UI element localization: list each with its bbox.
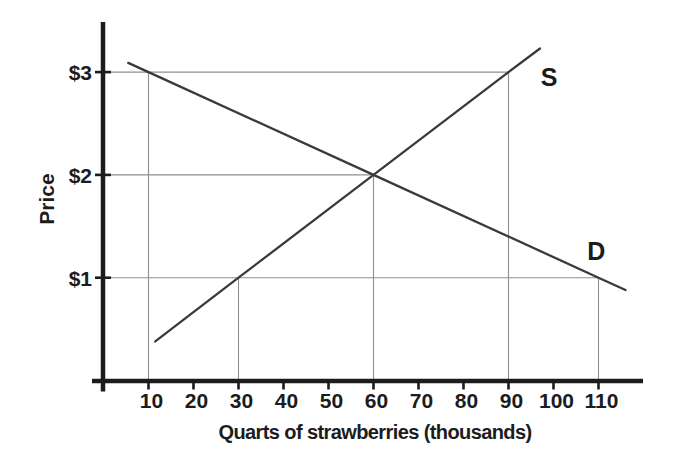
x-tick-label-40: 40: [275, 389, 298, 412]
x-tick-label-100: 100: [539, 389, 574, 412]
x-tick-label-10: 10: [140, 389, 163, 412]
y-tick-label-3: $3: [69, 61, 92, 84]
x-tick-label-30: 30: [230, 389, 253, 412]
y-tick-label-1: $1: [69, 267, 93, 290]
x-tick-label-110: 110: [585, 389, 619, 412]
supply-curve: [155, 48, 540, 341]
demand-curve: [128, 63, 625, 290]
y-axis-title: Price: [35, 173, 59, 224]
supply-demand-chart: 102030405060708090100110$1$2$3SD Price Q…: [0, 0, 673, 462]
x-tick-label-60: 60: [365, 389, 388, 412]
y-tick-label-2: $2: [69, 164, 92, 187]
x-tick-label-50: 50: [320, 389, 343, 412]
chart-canvas: 102030405060708090100110$1$2$3SD: [0, 0, 673, 462]
supply-curve-label: S: [541, 63, 558, 91]
x-tick-label-80: 80: [455, 389, 478, 412]
x-tick-label-70: 70: [410, 389, 433, 412]
x-axis-title: Quarts of strawberries (thousands): [219, 421, 532, 444]
demand-curve-label: D: [587, 237, 605, 265]
x-tick-label-90: 90: [500, 389, 523, 412]
x-tick-label-20: 20: [185, 389, 208, 412]
